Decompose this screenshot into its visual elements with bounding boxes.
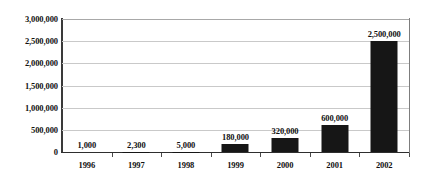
x-axis-tick <box>409 153 410 157</box>
y-axis-tick-label: 3,000,000 <box>0 15 58 24</box>
bar[interactable] <box>272 138 299 152</box>
plot-right-border <box>409 18 410 153</box>
bar-value-label: 2,500,000 <box>368 30 401 39</box>
bar-group: 5,000 <box>161 19 211 152</box>
bar-group: 180,000 <box>211 19 261 152</box>
x-axis-tick <box>359 153 360 157</box>
x-axis-tick <box>260 153 261 157</box>
x-axis-category-label: 2002 <box>376 160 393 170</box>
x-axis-tick <box>310 153 311 157</box>
bar-group: 600,000 <box>310 19 360 152</box>
y-axis-tick-label: 2,000,000 <box>0 59 58 68</box>
bar-value-label: 180,000 <box>222 133 249 142</box>
x-axis-category-label: 1997 <box>128 160 145 170</box>
y-axis-tick-label: 1,500,000 <box>0 81 58 90</box>
x-axis-category-label: 1996 <box>78 160 95 170</box>
bar-group: 2,500,000 <box>359 19 409 152</box>
bar[interactable] <box>371 41 398 152</box>
bar[interactable] <box>321 125 348 152</box>
bar-value-label: 2,300 <box>127 141 146 150</box>
x-axis-tick <box>161 153 162 157</box>
x-axis-category-label: 1999 <box>227 160 244 170</box>
bar-value-label: 1,000 <box>77 141 96 150</box>
y-axis-tick-label: 2,500,000 <box>0 37 58 46</box>
bar-group: 320,000 <box>260 19 310 152</box>
x-axis-category-label: 2001 <box>326 160 343 170</box>
bars-layer: 1,0002,3005,000180,000320,000600,0002,50… <box>62 19 409 152</box>
bar-value-label: 5,000 <box>177 141 196 150</box>
x-axis-labels: 1996199719981999200020012002 <box>62 160 409 176</box>
y-axis-labels: 3,000,0002,500,0002,000,0001,500,0001,00… <box>0 0 58 183</box>
y-axis-tick-label: 0 <box>0 148 58 157</box>
x-axis-tick <box>112 153 113 157</box>
bar-group: 2,300 <box>112 19 162 152</box>
bar-group: 1,000 <box>62 19 112 152</box>
x-axis-category-label: 1998 <box>178 160 195 170</box>
x-axis-category-label: 2000 <box>277 160 294 170</box>
bar-value-label: 320,000 <box>272 127 299 136</box>
y-axis-tick-label: 1,000,000 <box>0 103 58 112</box>
bar[interactable] <box>222 144 249 152</box>
bar-value-label: 600,000 <box>321 114 348 123</box>
x-axis-line <box>61 152 410 153</box>
y-axis-tick-label: 500,000 <box>0 125 58 134</box>
x-axis-tick <box>211 153 212 157</box>
bar-chart: 3,000,0002,500,0002,000,0001,500,0001,00… <box>0 0 437 183</box>
